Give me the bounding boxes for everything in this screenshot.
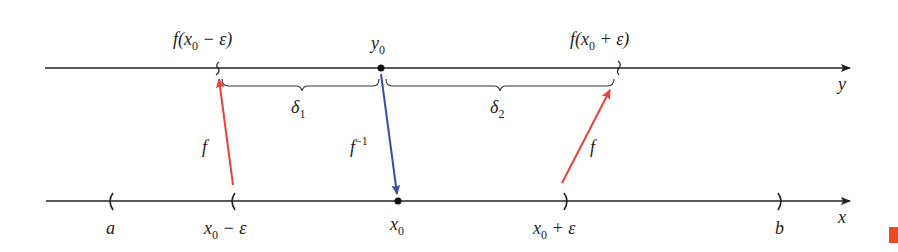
y-axis-label: y: [836, 74, 846, 94]
label-x0: x0: [389, 214, 404, 238]
label-x0-minus-eps: x0 − ε: [203, 218, 247, 242]
x-axis: x: [46, 193, 850, 227]
label-delta2: δ2: [490, 97, 504, 121]
brace-delta1: [222, 79, 379, 91]
label-f-inverse: f−1: [350, 134, 368, 157]
label-f-x0-plus-eps: f(x0 + ε): [570, 29, 629, 53]
y-axis: y: [45, 61, 850, 94]
arrow-f-right: [562, 90, 610, 183]
y0-point: [378, 65, 385, 72]
label-x0-plus-eps: x0 + ε: [532, 218, 576, 242]
label-b: b: [775, 218, 784, 238]
brace-delta2: [386, 79, 614, 91]
label-a: a: [106, 218, 115, 238]
arrow-f-left: [219, 79, 233, 185]
x0-point: [395, 198, 402, 205]
label-f-left: f: [202, 137, 210, 157]
label-y0: y0: [369, 33, 385, 57]
x-axis-label: x: [837, 207, 846, 227]
label-f-x0-minus-eps: f(x0 − ε): [173, 29, 232, 53]
label-delta1: δ1: [291, 97, 305, 121]
label-f-right: f: [590, 137, 598, 157]
corner-mark: [889, 227, 898, 243]
arrow-f-inverse: [381, 74, 397, 194]
inverse-function-diagram: y f(x0 − ε) y0 f(x0 + ε) δ1 δ2 x a x0 − …: [0, 0, 898, 252]
